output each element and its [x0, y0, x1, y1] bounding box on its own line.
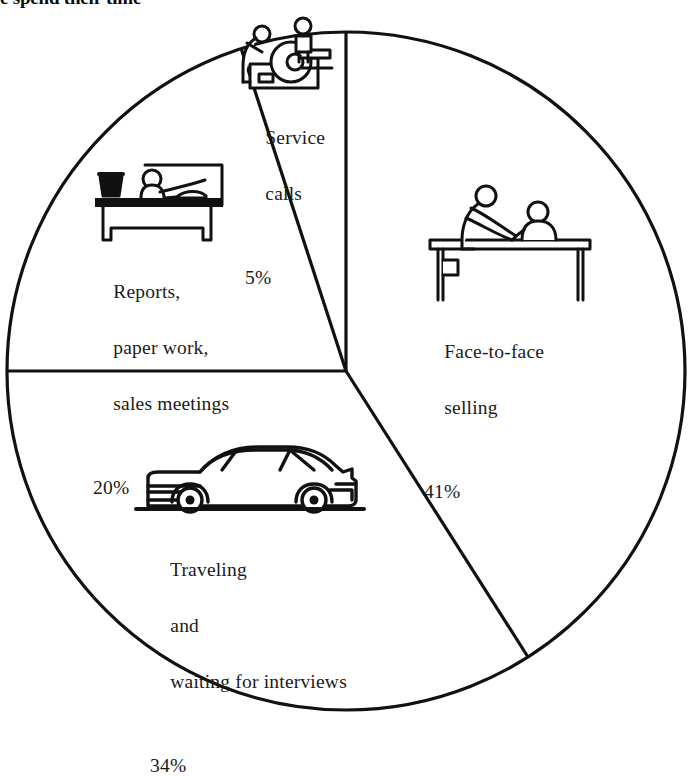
slice-value-service-calls: 5% [245, 264, 325, 292]
slice-label-service-calls-line-0: Service [265, 127, 325, 148]
slice-value-face-to-face: 41% [424, 478, 544, 506]
slice-label-face-to-face: Face-to-face selling 41% [424, 310, 544, 562]
slice-label-service-calls-line-1: calls [265, 183, 302, 204]
slice-value-reports: 20% [93, 474, 229, 502]
slice-label-reports-line-2: sales meetings [113, 393, 229, 414]
slice-label-traveling: Traveling and waiting for interviews 34% [150, 528, 347, 776]
desk-paperwork-icon [95, 165, 223, 240]
slice-label-reports-line-0: Reports, [113, 281, 180, 302]
slice-label-reports: Reports, paper work, sales meetings 20% [93, 250, 229, 558]
slice-value-traveling: 34% [150, 752, 347, 776]
slice-label-reports-line-1: paper work, [113, 337, 208, 358]
slice-label-traveling-line-2: waiting for interviews [170, 671, 347, 692]
slice-label-face-to-face-line-1: selling [444, 397, 497, 418]
slice-label-traveling-line-1: and [170, 615, 199, 636]
slice-label-traveling-line-0: Traveling [170, 559, 247, 580]
slice-label-face-to-face-line-0: Face-to-face [444, 341, 544, 362]
slice-label-service-calls: Service calls 5% [245, 96, 325, 348]
